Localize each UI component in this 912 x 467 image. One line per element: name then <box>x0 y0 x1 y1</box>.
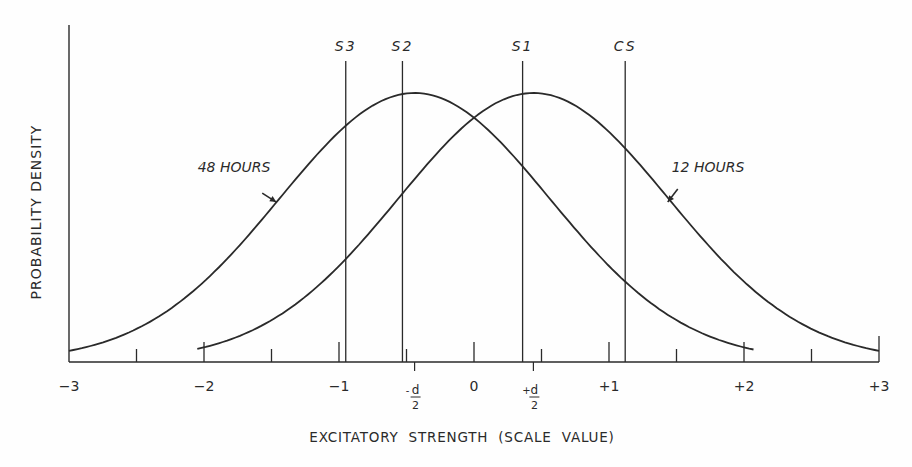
x-tick-label: −2 <box>194 378 215 394</box>
curve-12-hours <box>197 93 879 351</box>
fraction-sign: - <box>406 385 410 396</box>
distribution-curves: 48 HOURS12 HOURS <box>69 93 879 351</box>
x-tick-label: −3 <box>59 378 80 394</box>
x-axis-ticks: −3−2−10+1+2+3-d2+d2 <box>59 336 890 412</box>
axes <box>69 25 879 362</box>
x-tick-label: −1 <box>329 378 350 394</box>
x-tick-label: +2 <box>734 378 755 394</box>
fraction-denominator: 2 <box>531 399 538 412</box>
x-axis-label: EXCITATORY STRENGTH (SCALE VALUE) <box>309 429 614 445</box>
fraction-numerator: d <box>412 383 420 397</box>
curve-label-12-hours: 12 HOURS <box>672 159 745 175</box>
fraction-denominator: 2 <box>412 399 419 412</box>
fraction-numerator: d <box>531 383 539 397</box>
x-tick-label: +3 <box>869 378 890 394</box>
stimulus-lines: S3S2S1CS <box>335 38 637 362</box>
stimulus-label-s3: S3 <box>335 38 357 54</box>
x-tick-label: +1 <box>599 378 620 394</box>
x-tick-label: 0 <box>470 378 479 394</box>
curve-label-48-hours: 48 HOURS <box>198 159 271 175</box>
stimulus-label-s2: S2 <box>392 38 414 54</box>
chart-figure: S3S2S1CS 48 HOURS12 HOURS −3−2−10+1+2+3-… <box>0 0 912 467</box>
fraction-sign: + <box>522 385 530 396</box>
stimulus-label-s1: S1 <box>512 38 534 54</box>
y-axis-label: PROBABILITY DENSITY <box>28 125 44 300</box>
stimulus-label-cs: CS <box>614 38 637 54</box>
chart-svg: S3S2S1CS 48 HOURS12 HOURS −3−2−10+1+2+3-… <box>0 0 912 467</box>
curve-48-hours <box>69 93 754 351</box>
